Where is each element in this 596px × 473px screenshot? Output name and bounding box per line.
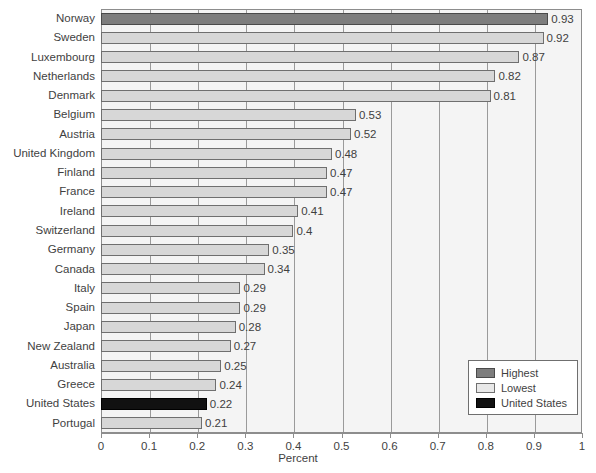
bar-row: Luxembourg0.87	[0, 48, 596, 67]
x-tick-label: 0.3	[237, 440, 253, 452]
bar-row: Spain0.29	[0, 298, 596, 317]
x-tick-label: 1	[579, 440, 585, 452]
bar-value-label: 0.87	[519, 50, 544, 64]
x-tick	[486, 433, 487, 438]
bar[interactable]	[101, 302, 240, 314]
x-tick	[582, 433, 583, 438]
category-label: Belgium	[0, 105, 95, 124]
legend-label: Highest	[501, 367, 538, 379]
bar[interactable]	[101, 90, 491, 102]
legend-swatch-icon	[476, 383, 495, 393]
bar-row: France0.47	[0, 182, 596, 201]
bar-value-label: 0.35	[269, 243, 294, 257]
bar-value-label: 0.52	[351, 127, 376, 141]
category-label: Japan	[0, 317, 95, 336]
bar-row: Sweden0.92	[0, 28, 596, 47]
bar-row: Ireland0.41	[0, 202, 596, 221]
category-label: Canada	[0, 260, 95, 279]
bar[interactable]	[101, 70, 495, 82]
bar[interactable]	[101, 321, 236, 333]
bar[interactable]	[101, 167, 327, 179]
category-label: New Zealand	[0, 337, 95, 356]
bar-value-label: 0.21	[202, 416, 227, 430]
bar[interactable]	[101, 51, 519, 63]
bar-value-label: 0.24	[216, 378, 241, 392]
x-tick-label: 0.8	[478, 440, 494, 452]
bar[interactable]	[101, 109, 356, 121]
bar[interactable]	[101, 417, 202, 429]
bar-row: Italy0.29	[0, 279, 596, 298]
bar[interactable]	[101, 263, 265, 275]
category-label: Finland	[0, 163, 95, 182]
category-label: Germany	[0, 240, 95, 259]
bar-value-label: 0.48	[332, 147, 357, 161]
bar[interactable]	[101, 32, 544, 44]
bar[interactable]	[101, 13, 548, 25]
bar[interactable]	[101, 244, 269, 256]
x-tick-label: 0.5	[334, 440, 350, 452]
bar-row: New Zealand0.27	[0, 337, 596, 356]
category-label: Portugal	[0, 414, 95, 433]
x-tick	[390, 433, 391, 438]
bar-value-label: 0.47	[327, 185, 352, 199]
bar[interactable]	[101, 398, 207, 410]
bar[interactable]	[101, 128, 351, 140]
x-tick	[101, 433, 102, 438]
bar[interactable]	[101, 360, 221, 372]
bar-value-label: 0.82	[495, 69, 520, 83]
x-tick	[149, 433, 150, 438]
bar[interactable]	[101, 379, 216, 391]
legend-label: United States	[501, 397, 567, 409]
category-label: Denmark	[0, 86, 95, 105]
bar-value-label: 0.81	[491, 89, 516, 103]
category-label: Italy	[0, 279, 95, 298]
bar-chart: Norway0.93Sweden0.92Luxembourg0.87Nether…	[0, 0, 596, 473]
category-label: Switzerland	[0, 221, 95, 240]
legend-swatch-icon	[476, 368, 495, 378]
category-label: Norway	[0, 9, 95, 28]
bar-row: Norway0.93	[0, 9, 596, 28]
bar[interactable]	[101, 340, 231, 352]
x-tick	[245, 433, 246, 438]
chart-legend: HighestLowestUnited States	[468, 360, 578, 415]
category-label: Austria	[0, 125, 95, 144]
bar-row: Portugal0.21	[0, 414, 596, 433]
bar-value-label: 0.53	[356, 108, 381, 122]
category-label: Australia	[0, 356, 95, 375]
x-tick-label: 0.1	[141, 440, 157, 452]
x-tick-label: 0.9	[526, 440, 542, 452]
bar-row: Switzerland0.4	[0, 221, 596, 240]
bar-value-label: 0.4	[293, 224, 312, 238]
legend-label: Lowest	[501, 382, 536, 394]
x-tick	[342, 433, 343, 438]
category-label: Ireland	[0, 202, 95, 221]
legend-swatch-icon	[476, 398, 495, 408]
bar-value-label: 0.34	[265, 262, 290, 276]
legend-item[interactable]: Lowest	[476, 381, 570, 394]
category-label: Luxembourg	[0, 48, 95, 67]
bar[interactable]	[101, 148, 332, 160]
bar-row: Belgium0.53	[0, 105, 596, 124]
bar-row: Finland0.47	[0, 163, 596, 182]
category-label: United Kingdom	[0, 144, 95, 163]
bar-row: Japan0.28	[0, 317, 596, 336]
bar-value-label: 0.92	[544, 31, 569, 45]
x-tick-label: 0.2	[189, 440, 205, 452]
bar-value-label: 0.22	[207, 397, 232, 411]
category-label: Spain	[0, 298, 95, 317]
legend-item[interactable]: Highest	[476, 366, 570, 379]
x-tick-label: 0.6	[382, 440, 398, 452]
legend-item[interactable]: United States	[476, 396, 570, 409]
bar[interactable]	[101, 225, 293, 237]
x-tick	[293, 433, 294, 438]
category-label: France	[0, 182, 95, 201]
bar[interactable]	[101, 186, 327, 198]
bar[interactable]	[101, 282, 240, 294]
category-label: Greece	[0, 375, 95, 394]
category-label: Netherlands	[0, 67, 95, 86]
bar-value-label: 0.29	[240, 281, 265, 295]
bar[interactable]	[101, 205, 298, 217]
x-tick	[197, 433, 198, 438]
x-axis-title: Percent	[0, 452, 596, 464]
bar-value-label: 0.41	[298, 204, 323, 218]
